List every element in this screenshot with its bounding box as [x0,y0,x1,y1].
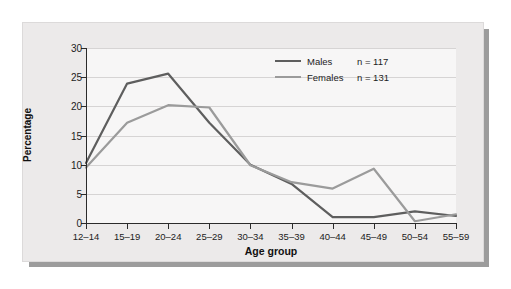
x-tick-mark [456,224,457,229]
legend-item-males: Males n = 117 [275,53,389,69]
y-tick-label: 0 [76,218,82,229]
x-tick-mark [86,224,87,229]
x-tick-mark [168,224,169,229]
x-tick-mark [374,224,375,229]
x-tick-mark [415,224,416,229]
y-tick: 20 [86,106,87,107]
series-line-males [86,74,456,218]
y-tick-label: 20 [71,101,82,112]
y-axis-title: Percentage [22,108,33,162]
x-tick-label: 45–49 [361,231,387,242]
y-tick: 10 [86,165,87,166]
chart-screenshot: 051015202530 12–1415–1920–2425–2930–3435… [0,0,511,289]
x-tick-label: 50–54 [402,231,428,242]
x-tick-mark [127,224,128,229]
chart-legend: Males n = 117 Females n = 131 [275,53,389,85]
series-line-females [86,105,456,221]
y-tick: 15 [86,136,87,137]
legend-label-females: Females [307,72,351,83]
line-chart: 051015202530 12–1415–1920–2425–2930–3435… [23,23,485,263]
y-tick-label: 25 [71,72,82,83]
y-tick: 30 [86,48,87,49]
x-tick-label: 35–39 [278,231,304,242]
y-tick: 25 [86,77,87,78]
x-tick-label: 40–44 [319,231,345,242]
legend-count-females: n = 131 [357,72,389,83]
x-tick-label: 12–14 [73,231,99,242]
x-axis-title: Age group [86,245,456,257]
y-tick-label: 5 [76,188,82,199]
x-tick-label: 55–59 [443,231,469,242]
x-tick-label: 25–29 [196,231,222,242]
series-lines [86,48,456,224]
legend-count-males: n = 117 [357,56,388,67]
x-tick-mark [209,224,210,229]
x-tick-mark [333,224,334,229]
y-tick-label: 15 [71,130,82,141]
x-tick-label: 20–24 [155,231,181,242]
y-tick-label: 10 [71,159,82,170]
legend-label-males: Males [307,56,351,67]
x-tick-label: 15–19 [114,231,140,242]
legend-swatch-females-icon [275,76,301,79]
x-tick-mark [250,224,251,229]
legend-swatch-males-icon [275,60,301,63]
y-tick-label: 30 [71,43,82,54]
x-tick-label: 30–34 [237,231,263,242]
legend-item-females: Females n = 131 [275,69,389,85]
chart-card: 051015202530 12–1415–1920–2425–2930–3435… [22,22,484,262]
x-tick-mark [292,224,293,229]
y-tick: 5 [86,194,87,195]
x-axis-line [86,223,457,224]
